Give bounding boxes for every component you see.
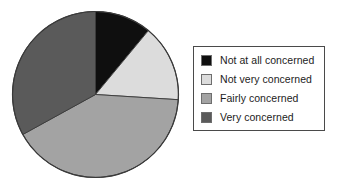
legend-label-not-at-all-concerned: Not at all concerned	[220, 55, 314, 66]
legend-swatch-not-very-concerned	[201, 74, 212, 85]
legend-item-fairly-concerned: Fairly concerned	[194, 89, 324, 108]
pie-slice-group	[13, 12, 179, 178]
legend-swatch-not-at-all-concerned	[201, 55, 212, 66]
legend-swatch-very-concerned	[201, 112, 212, 123]
chart-legend: Not at all concerned Not very concerned …	[193, 46, 325, 131]
pie-graphic	[11, 10, 180, 179]
legend-label-very-concerned: Very concerned	[220, 112, 294, 123]
pie-chart-figure: Not at all concerned Not very concerned …	[0, 0, 342, 186]
legend-item-not-very-concerned: Not very concerned	[194, 70, 324, 89]
pie-svg	[11, 10, 180, 179]
legend-item-not-at-all-concerned: Not at all concerned	[194, 51, 324, 70]
legend-swatch-fairly-concerned	[201, 93, 212, 104]
legend-label-fairly-concerned: Fairly concerned	[220, 93, 298, 104]
legend-item-very-concerned: Very concerned	[194, 108, 324, 127]
legend-label-not-very-concerned: Not very concerned	[220, 74, 312, 85]
